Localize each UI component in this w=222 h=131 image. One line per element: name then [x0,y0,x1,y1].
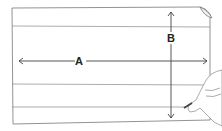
height-arrow [168,12,174,118]
ruled-lines [12,26,210,107]
paper-sheet [12,7,212,124]
width-arrow [19,58,207,64]
paper-sketch [0,0,222,131]
label-a: A [75,56,83,67]
hand-with-pen-icon [184,70,222,126]
label-b: B [167,33,175,44]
